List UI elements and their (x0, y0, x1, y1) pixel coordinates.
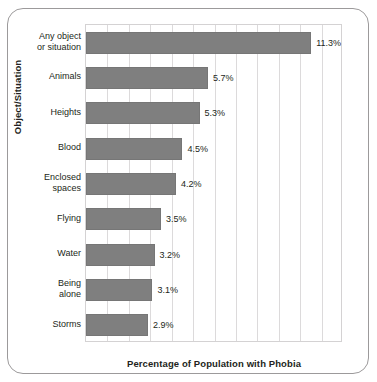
bar[interactable] (86, 138, 182, 160)
bar-row[interactable]: 5.7% (86, 67, 341, 89)
bar-row[interactable]: 3.5% (86, 208, 341, 230)
bar-value-label: 2.9% (153, 320, 174, 330)
bar-value-label: 3.5% (166, 214, 187, 224)
bar[interactable] (86, 314, 148, 336)
category-label: Storms (14, 307, 81, 342)
category-label: Animals (14, 59, 81, 94)
bar-value-label: 5.7% (213, 73, 234, 83)
bar-row[interactable]: 11.3% (86, 32, 341, 54)
bar-row[interactable]: 3.2% (86, 244, 341, 266)
bar-value-label: 3.2% (160, 250, 181, 260)
bar-row[interactable]: 4.2% (86, 173, 341, 195)
bar[interactable] (86, 208, 161, 230)
plot-area: 11.3%5.7%5.3%4.5%4.2%3.5%3.2%3.1%2.9% (85, 24, 342, 342)
bar[interactable] (86, 67, 208, 89)
x-axis-title: Percentage of Population with Phobia (85, 358, 343, 369)
bar-row[interactable]: 3.1% (86, 279, 341, 301)
bar-row[interactable]: 5.3% (86, 102, 341, 124)
bar[interactable] (86, 32, 311, 54)
bar[interactable] (86, 173, 176, 195)
bar-row[interactable]: 2.9% (86, 314, 341, 336)
category-labels: Any objector situationAnimalsHeightsBloo… (14, 24, 81, 342)
bar-series: 11.3%5.7%5.3%4.5%4.2%3.5%3.2%3.1%2.9% (86, 25, 341, 341)
chart-figure: Object/Situation Any objector situationA… (0, 0, 377, 382)
category-label: Water (14, 236, 81, 271)
category-label: Beingalone (14, 271, 81, 306)
category-label: Enclosedspaces (14, 165, 81, 200)
category-label: Blood (14, 130, 81, 165)
category-label: Heights (14, 95, 81, 130)
category-label: Flying (14, 201, 81, 236)
bar-value-label: 4.2% (181, 179, 202, 189)
bar-value-label: 4.5% (187, 144, 208, 154)
bar-value-label: 5.3% (205, 108, 226, 118)
bar-row[interactable]: 4.5% (86, 138, 341, 160)
bar[interactable] (86, 244, 155, 266)
bar-value-label: 11.3% (316, 38, 341, 48)
category-label: Any objector situation (14, 24, 81, 59)
bar[interactable] (86, 102, 200, 124)
bar[interactable] (86, 279, 152, 301)
bar-value-label: 3.1% (157, 285, 178, 295)
